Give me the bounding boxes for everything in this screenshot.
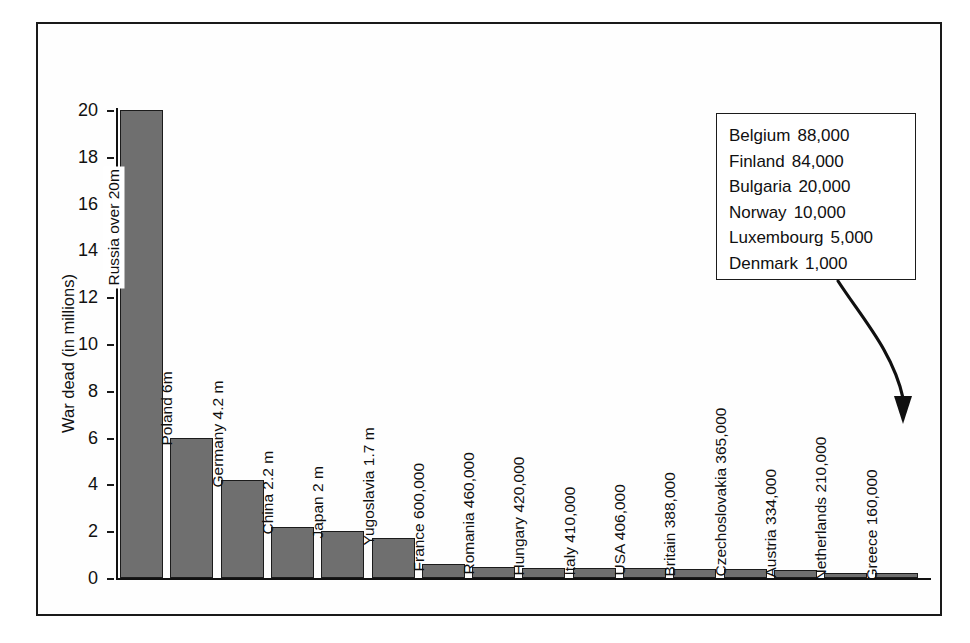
callout-country: Bulgaria xyxy=(729,177,791,196)
callout-entry: Finland84,000 xyxy=(729,149,915,175)
callout-entry: Denmark1,000 xyxy=(729,251,915,277)
callout-entry: Bulgaria20,000 xyxy=(729,174,915,200)
chart-frame-border xyxy=(36,22,942,616)
callout-box: Belgium88,000Finland84,000Bulgaria20,000… xyxy=(716,113,916,280)
callout-country: Finland xyxy=(729,152,785,171)
callout-value: 88,000 xyxy=(797,126,849,145)
callout-entry: Luxembourg5,000 xyxy=(729,225,915,251)
callout-value: 5,000 xyxy=(831,228,874,247)
callout-value: 1,000 xyxy=(805,254,848,273)
callout-country: Norway xyxy=(729,203,787,222)
callout-value: 84,000 xyxy=(792,152,844,171)
callout-entry: Belgium88,000 xyxy=(729,123,915,149)
callout-value: 20,000 xyxy=(798,177,850,196)
callout-country: Denmark xyxy=(729,254,798,273)
callout-entry: Norway10,000 xyxy=(729,200,915,226)
chart-figure: War dead (in millions) 02468101214161820… xyxy=(0,0,970,643)
callout-country: Belgium xyxy=(729,126,790,145)
callout-entry-list: Belgium88,000Finland84,000Bulgaria20,000… xyxy=(729,123,915,276)
callout-value: 10,000 xyxy=(794,203,846,222)
callout-country: Luxembourg xyxy=(729,228,824,247)
